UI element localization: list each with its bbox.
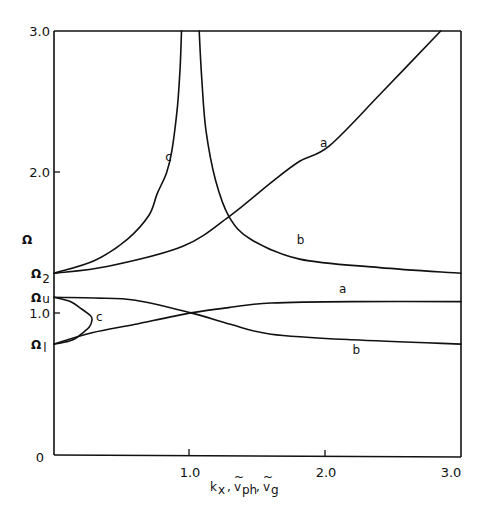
omega1-symbol: Ω xyxy=(31,338,41,352)
omegau-annotation: Ω u xyxy=(31,291,50,306)
omegau-symbol: Ω xyxy=(31,291,41,305)
x-title-k-sub: x xyxy=(218,483,225,497)
y-tick-label-2: 2.0 xyxy=(29,165,50,180)
y-tick-label-1: 1.0 xyxy=(29,306,50,321)
curve-c-upper xyxy=(54,31,182,273)
x-title-vg: v xyxy=(263,480,270,494)
curve-b-upper xyxy=(199,31,461,273)
x-title-vg-sub: g xyxy=(271,483,279,497)
x-title-comma-2: , xyxy=(256,480,260,494)
x-tick-label-2: 2.0 xyxy=(316,465,337,480)
x-title-k: k xyxy=(210,480,217,494)
curves xyxy=(54,31,461,344)
omega2-subscript: 2 xyxy=(42,272,50,286)
curve-c-lower xyxy=(54,297,92,344)
dispersion-chart: 3.0 2.0 1.0 0 1.0 2.0 3.0 Ω Ω 2 Ω u Ω l … xyxy=(0,0,487,518)
curve-label-a-upper: a xyxy=(320,136,327,150)
y-tick-label-3: 3.0 xyxy=(29,24,50,39)
omega1-annotation: Ω l xyxy=(31,338,47,355)
curve-label-c-lower: c xyxy=(96,310,103,324)
y-axis-title: Ω xyxy=(22,233,32,247)
ticks xyxy=(54,172,325,456)
x-title-vph: v xyxy=(234,480,241,494)
x-title-comma-1: , xyxy=(227,480,231,494)
x-axis-title: k x , ~ v ph , ~ v g xyxy=(210,470,279,497)
omegau-subscript: u xyxy=(42,292,50,306)
curve-label-b-upper: b xyxy=(297,233,305,247)
y-tick-label-0: 0 xyxy=(36,450,44,465)
x-tick-label-3: 3.0 xyxy=(441,465,462,480)
curve-label-c-upper: c xyxy=(165,150,172,164)
omega1-subscript: l xyxy=(43,341,46,355)
x-axis xyxy=(54,455,461,457)
curve-label-a-lower: a xyxy=(339,282,346,296)
curve-label-b-lower: b xyxy=(353,343,361,357)
x-tick-label-1: 1.0 xyxy=(180,465,201,480)
omega2-symbol: Ω xyxy=(31,267,41,281)
curve-a-lower xyxy=(54,301,461,344)
omega2-annotation: Ω 2 xyxy=(31,267,50,286)
x-title-vph-sub: ph xyxy=(242,483,257,497)
